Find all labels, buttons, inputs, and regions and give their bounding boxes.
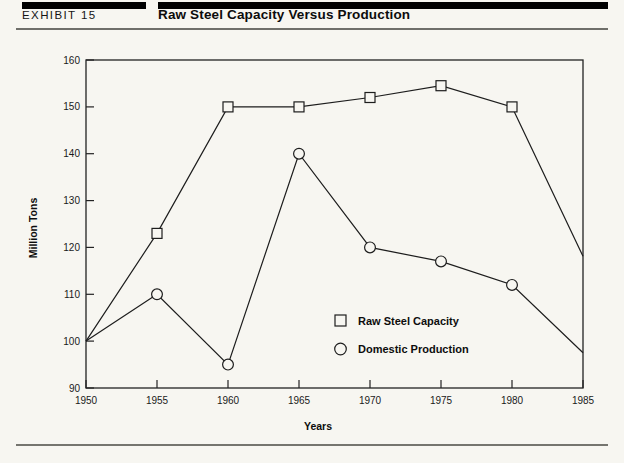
- x-tick-label: 1985: [572, 395, 595, 406]
- x-tick-label: 1960: [217, 395, 240, 406]
- series-line-domestic-production: [86, 154, 583, 365]
- line-chart: 160 150 140 130 120 110 100 90: [0, 0, 624, 463]
- legend-label-domestic-production: Domestic Production: [358, 343, 469, 355]
- legend-label-raw-steel-capacity: Raw Steel Capacity: [358, 315, 460, 327]
- x-tick-label: 1965: [288, 395, 311, 406]
- chart-container: 160 150 140 130 120 110 100 90: [0, 0, 624, 463]
- data-point-marker: [365, 93, 375, 103]
- data-point-marker: [365, 242, 376, 253]
- data-point-marker: [223, 102, 233, 112]
- x-axis-labels: 1950 1955 1960 1965 1970 1975 1980 1985: [75, 395, 595, 406]
- series-line-raw-steel-capacity: [86, 86, 583, 341]
- data-point-marker: [223, 359, 234, 370]
- x-tick-label: 1975: [430, 395, 453, 406]
- exhibit-page: EXHIBIT 15 Raw Steel Capacity Versus Pro…: [0, 0, 624, 463]
- data-point-marker: [436, 256, 447, 267]
- data-point-marker: [294, 102, 304, 112]
- y-axis-title: Million Tons: [27, 198, 39, 259]
- y-tick-label: 110: [64, 289, 80, 300]
- y-tick-label: 150: [63, 101, 80, 112]
- x-tick-label: 1970: [359, 395, 382, 406]
- legend-circle-icon: [335, 343, 347, 355]
- y-tick-label: 100: [63, 336, 80, 347]
- y-axis-labels: 160 150 140 130 120 110 100 90: [63, 55, 80, 394]
- series-markers-domestic-production: [152, 148, 518, 370]
- footer-divider: [16, 444, 608, 446]
- y-tick-label: 130: [63, 195, 80, 206]
- data-point-marker: [507, 102, 517, 112]
- x-tick-label: 1980: [501, 395, 524, 406]
- legend-square-icon: [335, 315, 346, 326]
- data-point-marker: [152, 289, 163, 300]
- x-tick-label: 1950: [75, 395, 98, 406]
- data-point-marker: [152, 228, 162, 238]
- x-axis-title: Years: [304, 420, 332, 432]
- series-markers-raw-steel-capacity: [152, 81, 517, 239]
- y-tick-label: 120: [63, 242, 80, 253]
- data-point-marker: [436, 81, 446, 91]
- x-tick-label: 1955: [146, 395, 169, 406]
- x-axis-ticks: [86, 380, 583, 388]
- data-point-marker: [507, 280, 518, 291]
- y-tick-label: 140: [63, 148, 80, 159]
- y-tick-label: 90: [69, 383, 81, 394]
- y-tick-label: 160: [63, 55, 80, 66]
- data-point-marker: [294, 148, 305, 159]
- chart-legend: Raw Steel Capacity Domestic Production: [335, 315, 469, 355]
